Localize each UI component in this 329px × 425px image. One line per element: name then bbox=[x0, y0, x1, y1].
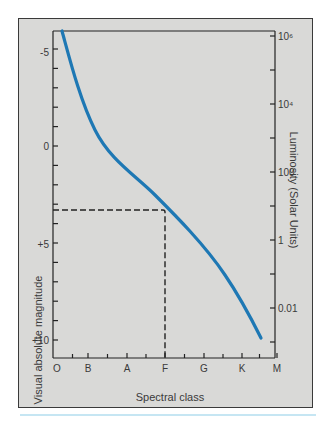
bottom-tick-label: B bbox=[85, 363, 92, 374]
bottom-tick-label: O bbox=[53, 363, 61, 374]
bottom-tick-label: A bbox=[124, 363, 131, 374]
y-axis-label-right: Luminosity (Solar Units) bbox=[286, 90, 300, 290]
bottom-tick-label: K bbox=[239, 363, 246, 374]
dashed-guide-line bbox=[53, 210, 165, 358]
y-axis-label-left: Visual absolute magnitude bbox=[32, 250, 46, 425]
left-axis-ticks bbox=[53, 49, 58, 340]
chart-svg: -50+5+10 10⁶10⁴10010.01 OBAFGKM bbox=[0, 0, 329, 425]
main-sequence-curve bbox=[62, 31, 261, 338]
left-tick-label: +5 bbox=[38, 239, 50, 250]
bottom-axis-ticks bbox=[73, 353, 278, 358]
right-tick-label: 10⁶ bbox=[278, 31, 293, 42]
right-tick-label: 0.01 bbox=[278, 303, 298, 314]
right-tick-label: 1 bbox=[278, 235, 284, 246]
bottom-axis-labels: OBAFGKM bbox=[53, 363, 281, 374]
bottom-tick-label: F bbox=[162, 363, 168, 374]
left-tick-label: 0 bbox=[43, 141, 49, 152]
left-tick-label: -5 bbox=[40, 47, 49, 58]
divider-rule bbox=[20, 414, 316, 416]
right-axis-ticks bbox=[270, 36, 275, 342]
bottom-tick-label: G bbox=[200, 363, 208, 374]
x-axis-label: Spectral class bbox=[120, 391, 220, 403]
bottom-tick-label: M bbox=[273, 363, 281, 374]
plot-axes bbox=[53, 31, 275, 358]
